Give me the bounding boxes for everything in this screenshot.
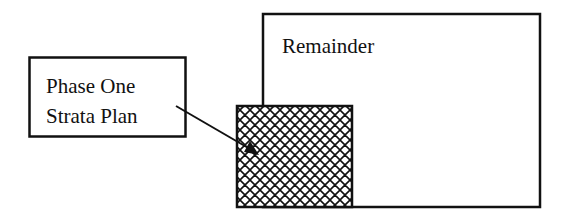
phase-one-hatched-area — [237, 106, 352, 207]
diagram-canvas: Remainder Phase One Strata Plan — [0, 0, 569, 222]
phase-one-label-line-1: Phase One — [46, 71, 135, 101]
phase-one-label-line-2: Strata Plan — [46, 101, 138, 131]
remainder-label: Remainder — [282, 31, 374, 61]
